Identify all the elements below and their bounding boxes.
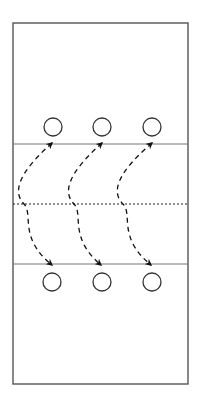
diagram-canvas <box>0 0 201 407</box>
player-bottom-2 <box>93 273 111 291</box>
player-bottom-3 <box>143 273 161 291</box>
player-top-3 <box>143 118 161 136</box>
court-lines <box>13 144 188 264</box>
player-bottom-1 <box>43 273 61 291</box>
player-top-2 <box>93 118 111 136</box>
player-top-1 <box>44 118 62 136</box>
volleyball-court-diagram <box>0 0 201 407</box>
